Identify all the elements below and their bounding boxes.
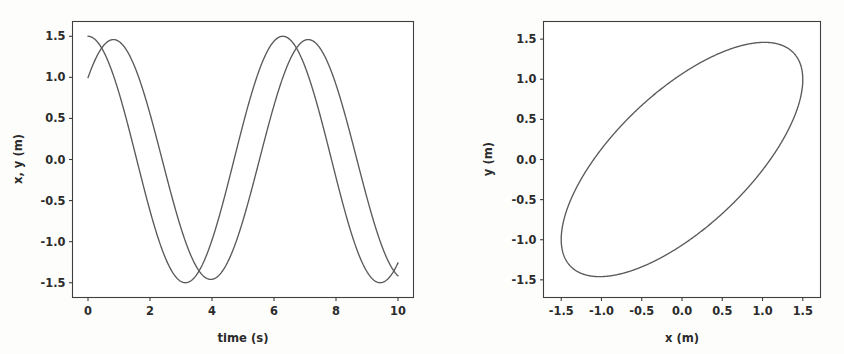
- right-y-tick-label: -1.0: [512, 233, 537, 247]
- right-x-tick-label: -1.0: [589, 304, 614, 318]
- left-plot-svg: 0246810-1.5-1.0-0.50.00.51.01.5 time (s)…: [0, 0, 430, 354]
- right-x-tick-label: 1.0: [752, 304, 772, 318]
- right-y-tick-label: -0.5: [512, 193, 537, 207]
- right-x-tick-label: -1.5: [549, 304, 574, 318]
- right-x-tick-label: 0.0: [672, 304, 692, 318]
- left-y-tick-label: -1.5: [41, 276, 66, 290]
- right-x-axis-label: x (m): [665, 331, 699, 345]
- right-y-tick-label: 0.5: [516, 112, 536, 126]
- right-plot-panel: -1.5-1.0-0.50.00.51.01.5-1.5-1.0-0.50.00…: [430, 0, 844, 354]
- left-x-tick-label: 8: [332, 304, 340, 318]
- left-x-tick-label: 0: [84, 304, 92, 318]
- left-y-tick-label: -0.5: [41, 194, 66, 208]
- left-plot-frame: [73, 22, 414, 298]
- right-x-tick-label: 0.5: [712, 304, 732, 318]
- left-x-tick-label: 10: [390, 304, 406, 318]
- left-y-tick-label: 1.0: [45, 70, 65, 84]
- right-plot-frame: [544, 22, 821, 298]
- right-plot-svg: -1.5-1.0-0.50.00.51.01.5-1.5-1.0-0.50.00…: [430, 0, 844, 354]
- left-y-tick-label: 0.5: [45, 111, 65, 125]
- right-y-axis-label: y (m): [481, 142, 495, 176]
- left-x-tick-label: 6: [270, 304, 278, 318]
- right-y-tick-label: 1.0: [516, 72, 536, 86]
- left-x-tick-label: 2: [146, 304, 154, 318]
- left-plot-panel: 0246810-1.5-1.0-0.50.00.51.01.5 time (s)…: [0, 0, 430, 354]
- left-y-tick-label: -1.0: [41, 235, 66, 249]
- right-y-tick-label: 0.0: [516, 153, 536, 167]
- right-y-tick-label: 1.5: [516, 32, 536, 46]
- right-x-tick-label: -0.5: [629, 304, 654, 318]
- right-x-tick-label: 1.5: [793, 304, 813, 318]
- left-y-tick-label: 1.5: [45, 29, 65, 43]
- left-y-tick-label: 0.0: [45, 153, 65, 167]
- left-y-axis-label: x, y (m): [11, 134, 25, 184]
- figure-canvas: 0246810-1.5-1.0-0.50.00.51.01.5 time (s)…: [0, 0, 844, 354]
- right-y-tick-label: -1.5: [512, 273, 537, 287]
- left-x-tick-label: 4: [208, 304, 216, 318]
- left-x-axis-label: time (s): [218, 331, 269, 345]
